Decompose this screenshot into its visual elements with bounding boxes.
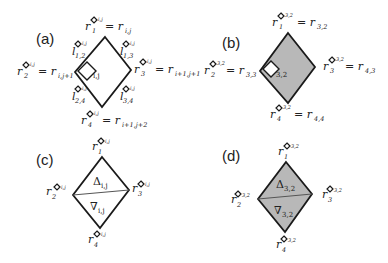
l24-sup: i,j: [82, 85, 87, 92]
panel-label-b: (b): [222, 34, 240, 51]
r4-base: r: [270, 108, 276, 121]
edge-l12-a: l 1,2 i,j: [72, 40, 87, 60]
panel-label-d: (d): [222, 147, 240, 164]
r4-base: r: [81, 114, 87, 127]
r1-sub: 1: [98, 148, 102, 156]
r3-base: r: [323, 60, 329, 73]
r3-sup: 3,2: [336, 56, 344, 62]
lower-triangle-sub: i,j: [98, 207, 105, 215]
r1-rhs-sub: 3,2: [317, 23, 327, 31]
l34-sup: i,j: [130, 85, 135, 92]
corner-r2-b: r 2 3,2 = r 3,3: [204, 60, 256, 79]
r4-rhs: = r: [102, 114, 121, 127]
sup-diamond-icon: [23, 62, 29, 68]
r3-sup: i,j: [147, 58, 152, 65]
r1-sup: i,j: [98, 16, 103, 23]
r3-sup: 3,2: [334, 187, 342, 193]
r4-sub: 4: [276, 115, 281, 123]
corner-r1-a: r 1 i,j = r i,j: [85, 16, 131, 35]
corner-r4-d: r 4 3,2: [276, 236, 296, 254]
l24-sub: 2,4: [74, 97, 85, 105]
sup-diamond-icon: [327, 186, 333, 192]
panel-c: (c) Δ i,j ∇ i,j r 1 i,j r 2 i,j r 3 i,j …: [36, 138, 150, 249]
r1-sup: 3,2: [291, 143, 299, 149]
r2-sup: i,j: [61, 184, 66, 191]
r1-rhs: = r: [105, 20, 124, 33]
r2-sub: 2: [51, 193, 56, 201]
r2-rhs: = r: [226, 64, 245, 77]
corner-r3-c: r 3 i,j: [132, 181, 150, 198]
r1-sub: 1: [284, 153, 288, 161]
sup-diamond-icon: [276, 105, 282, 111]
corner-r4-c: r 4 i,j: [88, 231, 106, 249]
sup-diamond-icon: [87, 111, 93, 117]
r2-sub: 2: [23, 72, 28, 80]
r4-sup: i,j: [101, 231, 106, 238]
r3-sub: 3: [330, 67, 334, 75]
r2-sup: i,j: [30, 61, 35, 68]
r3-rhs-sub: i+1,j+1: [175, 70, 200, 78]
corner-r4-b: r 4 3,2 = r 4,4: [270, 104, 324, 123]
corner-r2-a: r 2 i,j = r i,j+1: [17, 61, 74, 80]
r4-sub: 4: [281, 246, 286, 254]
sup-diamond-icon: [140, 59, 146, 65]
r1-sup: 3,2: [285, 12, 293, 18]
r3-sub: 3: [328, 196, 332, 204]
l13-sup: i,j: [130, 40, 135, 47]
sup-diamond-icon: [94, 231, 100, 237]
sup-diamond-icon: [98, 138, 104, 144]
r1-rhs: = r: [297, 16, 316, 29]
r1-sup: i,j: [105, 138, 110, 145]
lower-triangle-symbol: ∇: [90, 200, 98, 213]
r2-sup: 3,2: [242, 192, 250, 198]
corner-r2-c: r 2 i,j: [46, 184, 66, 201]
edge-l24-a: l 2,4 i,j: [72, 85, 87, 105]
r3-sub: 3: [138, 190, 142, 198]
cell-label-b: 3,2: [276, 71, 287, 79]
corner-r3-b: r 3 3,2 = r 4,3: [323, 56, 375, 75]
r4-sub: 4: [93, 241, 98, 249]
sup-diamond-icon: [329, 57, 335, 63]
sup-diamond-icon: [210, 61, 216, 67]
r2-base: r: [17, 65, 23, 78]
r2-base: r: [204, 64, 210, 77]
r3-sub: 3: [141, 70, 145, 78]
panel-d: (d) Δ 3,2 ∇ 3,2 r 1 3,2 r 2 3,2 r 3 3,2 …: [222, 143, 342, 254]
cell-label-a: i,j: [93, 72, 100, 80]
corner-r1-b: r 1 3,2 = r 3,2: [272, 12, 327, 31]
sup-diamond-icon: [278, 13, 284, 19]
r4-sup: 3,2: [283, 104, 291, 110]
r1-rhs-sub: i,j: [125, 27, 131, 35]
r1-base: r: [272, 16, 278, 29]
r2-sub: 2: [210, 71, 215, 79]
panel-a: (a) i,j r 1 i,j = r i,j r 2 i,j = r i,j+…: [17, 16, 200, 129]
corner-r3-a: r 3 i,j = r i+1,j+1: [134, 58, 200, 78]
sup-diamond-icon: [54, 184, 60, 190]
r2-rhs-sub: i,j+1: [58, 72, 74, 80]
r3-sup: i,j: [145, 181, 150, 188]
sup-diamond-icon: [123, 86, 129, 92]
r4-rhs: = r: [294, 108, 313, 121]
corner-r2-d: r 2 3,2: [231, 191, 250, 209]
sup-diamond-icon: [91, 17, 97, 23]
r2-rhs: = r: [38, 65, 57, 78]
upper-triangle-sub: 3,2: [284, 185, 295, 193]
edge-l34-a: l 3,4 i,j: [120, 85, 135, 105]
r4-sup: i,j: [94, 110, 99, 117]
l12-sup: i,j: [82, 40, 87, 47]
diagram-canvas: (a) i,j r 1 i,j = r i,j r 2 i,j = r i,j+…: [0, 0, 388, 263]
sup-diamond-icon: [281, 236, 287, 242]
r4-sub: 4: [87, 121, 92, 129]
r3-rhs: = r: [155, 63, 174, 76]
lower-triangle-sub: 3,2: [282, 211, 293, 219]
r2-rhs-sub: 3,3: [246, 71, 256, 79]
sup-diamond-icon: [123, 41, 129, 47]
sup-diamond-icon: [75, 86, 81, 92]
upper-triangle-symbol: Δ: [276, 178, 284, 191]
r2-sup: 3,2: [217, 60, 225, 66]
r1-sub: 1: [279, 23, 283, 31]
l34-sub: 3,4: [123, 97, 133, 105]
r3-base: r: [134, 63, 140, 76]
r4-rhs-sub: 4,4: [313, 115, 324, 123]
r2-sub: 2: [236, 201, 241, 209]
